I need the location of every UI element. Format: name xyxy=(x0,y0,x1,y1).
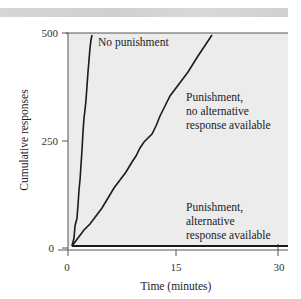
series-label-no-alt-line3: response available xyxy=(186,119,271,132)
y-tick-label-0: 0 xyxy=(49,242,55,254)
x-tick-label-15: 15 xyxy=(171,261,183,273)
x-tick-label-0: 0 xyxy=(64,261,70,273)
series-label-no-punishment: No punishment xyxy=(98,36,169,49)
series-label-alt-line3: response available xyxy=(186,229,271,242)
x-axis-title: Time (minutes) xyxy=(141,280,212,293)
y-tick-label-250: 250 xyxy=(42,135,59,147)
series-label-alt-line2: alternative xyxy=(186,215,235,227)
series-label-no-alt-line1: Punishment, xyxy=(186,91,243,104)
y-tick-label-500: 500 xyxy=(42,27,59,39)
series-label-alt-line1: Punishment, xyxy=(186,201,243,214)
cumulative-response-chart: 500 250 0 0 15 30 Time (minutes) Cumulat… xyxy=(0,0,301,299)
series-label-no-alt-line2: no alternative xyxy=(186,105,249,117)
y-axis-title: Cumulative responses xyxy=(18,89,31,191)
x-tick-label-30: 30 xyxy=(274,261,286,273)
plot-area xyxy=(68,33,288,247)
